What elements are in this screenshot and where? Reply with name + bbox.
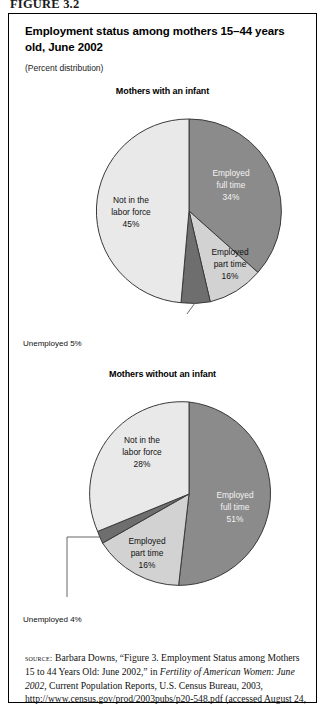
slice-label-not-in-labor-line2-2: labor force	[122, 447, 162, 457]
slice-label-full-time-line2-2: full time	[221, 502, 250, 512]
page-title: Employment status among mothers 15–44 ye…	[25, 24, 295, 55]
callout-unemployed-with-infant: Unemployed 5%	[23, 339, 82, 348]
pie-svg-1: Employed full time 34% Employed part tim…	[9, 109, 318, 314]
slice-label-full-time-line2-1: full time	[217, 180, 246, 190]
figure-label: FIGURE 3.2	[10, 0, 79, 12]
source-text-after: Current Population Reports, U.S. Census …	[25, 680, 306, 707]
slice-value-not-in-labor-1: 45%	[123, 219, 140, 229]
figure-frame: Employment status among mothers 15–44 ye…	[8, 13, 317, 703]
slice-value-part-time-1: 16%	[222, 271, 239, 281]
slice-value-full-time-1: 34%	[223, 192, 240, 202]
slice-value-not-in-labor-2: 28%	[134, 459, 151, 469]
slice-label-full-time-line1-2: Employed	[216, 490, 254, 500]
callout-leader-line-1	[69, 303, 195, 314]
callout-unemployed-without-infant: Unemployed 4%	[23, 615, 82, 624]
slice-value-full-time-2: 51%	[227, 514, 244, 524]
pie-svg-2: Employed full time 51% Employed part tim…	[9, 392, 318, 597]
slice-label-not-in-labor-line1-1: Not in the	[113, 195, 149, 205]
panel-title-with-infant: Mothers with an infant	[9, 86, 316, 96]
callout-leader-line-2	[61, 537, 100, 597]
pie-chart-mothers-with-infant: Employed full time 34% Employed part tim…	[9, 109, 318, 314]
slice-label-part-time-line2-2: part time	[131, 548, 164, 558]
source-note: source: Barbara Downs, “Figure 3. Employ…	[25, 651, 311, 707]
panel-title-without-infant: Mothers without an infant	[9, 369, 316, 379]
slice-value-part-time-2: 16%	[139, 560, 156, 570]
slice-label-part-time-line1-2: Employed	[128, 536, 166, 546]
slice-label-not-in-labor-line2-1: labor force	[111, 207, 151, 217]
slice-label-part-time-line2-1: part time	[214, 259, 247, 269]
slice-label-not-in-labor-line1-2: Not in the	[124, 435, 160, 445]
source-label: source:	[25, 653, 53, 663]
chart-subtitle: (Percent distribution)	[25, 63, 103, 73]
pie-chart-mothers-without-infant: Employed full time 51% Employed part tim…	[9, 392, 318, 597]
slice-label-part-time-line1-1: Employed	[211, 247, 249, 257]
slice-label-full-time-line1-1: Employed	[212, 168, 250, 178]
